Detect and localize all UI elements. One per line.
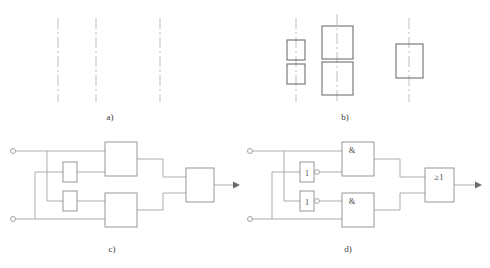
- caption-d: d): [344, 244, 352, 254]
- panel-c-input-terminal-bottom: [11, 217, 16, 222]
- panel-d-not-gate-upper-inversion-bubble: [315, 170, 320, 175]
- panel-c-output-arrowhead: [233, 182, 240, 189]
- panel-d-not-gate-lower-inversion-bubble: [315, 199, 320, 204]
- panel-b-block-2a: [322, 26, 353, 59]
- panel-c-small-block-upper: [63, 162, 77, 182]
- panel-c-wire-bottom-branch: [35, 172, 63, 219]
- panel-b: [287, 14, 423, 104]
- panel-d-and-gate-lower: [342, 193, 374, 227]
- panel-b-block-2b: [322, 62, 353, 95]
- panel-d-output-arrowhead: [475, 182, 482, 189]
- panel-d-wire-and-upper-to-or: [374, 159, 425, 177]
- caption-b: b): [341, 112, 349, 122]
- panel-c-small-block-lower: [63, 191, 77, 211]
- panel-d-and-gate-lower-label: &: [349, 196, 356, 206]
- panel-d-input-terminal-top: [248, 149, 253, 154]
- panel-b-block-3a: [396, 44, 423, 78]
- panel-d-or-gate-label: ≥1: [435, 172, 444, 182]
- panel-d: 1 1 & & ≥1: [248, 142, 483, 227]
- panel-d-wire-and-lower-to-or: [374, 193, 425, 210]
- panel-d-not-gate-lower-label: 1: [305, 198, 309, 207]
- panel-a: [58, 18, 160, 102]
- panel-d-input-terminal-bottom: [248, 217, 253, 222]
- panel-d-and-gate-upper-label: &: [349, 145, 356, 155]
- panel-b-group-3: [396, 18, 423, 102]
- panel-d-not-gate-upper-label: 1: [305, 169, 309, 178]
- panel-b-group-2: [322, 14, 353, 104]
- panel-c-wire-upper-to-output: [137, 159, 186, 177]
- figure-canvas: 1 1 & & ≥1 a) b) c) d): [0, 0, 490, 268]
- panel-c-output-block: [186, 168, 214, 202]
- panel-c-large-block-upper: [105, 142, 137, 176]
- panel-c-wire-top-branch: [47, 151, 63, 201]
- panel-d-wire-top-branch: [284, 151, 300, 201]
- panel-c-input-terminal-top: [11, 149, 16, 154]
- panel-b-group-1: [287, 18, 305, 102]
- panel-c: [11, 142, 241, 227]
- caption-c: c): [109, 244, 116, 254]
- panel-d-wire-bottom-branch: [272, 172, 300, 219]
- panel-d-and-gate-upper: [342, 142, 374, 176]
- panel-c-large-block-lower: [105, 193, 137, 227]
- panel-c-wire-lower-to-output: [137, 193, 186, 210]
- caption-a: a): [107, 112, 114, 122]
